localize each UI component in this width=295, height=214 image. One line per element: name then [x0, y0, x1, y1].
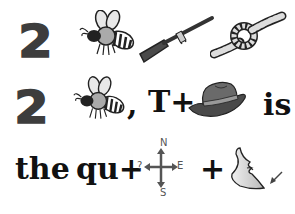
compass-south: S [160, 188, 166, 198]
number-two-row1: 2 [18, 20, 51, 64]
knot-icon [210, 10, 290, 60]
word-the: the [15, 154, 70, 184]
hat-icon [187, 78, 249, 120]
number-two-row2: 2 [14, 86, 47, 130]
compass-question: ? [137, 161, 142, 171]
bee-icon [78, 10, 138, 58]
compass-north: N [160, 138, 167, 148]
word-is: is [263, 90, 291, 120]
plus-sign: + [200, 154, 225, 184]
comma: , [127, 90, 137, 120]
oar-icon [136, 14, 216, 64]
bee-icon [72, 76, 128, 122]
compass-icon: ? N E S [134, 138, 186, 200]
chin-icon [228, 146, 286, 194]
